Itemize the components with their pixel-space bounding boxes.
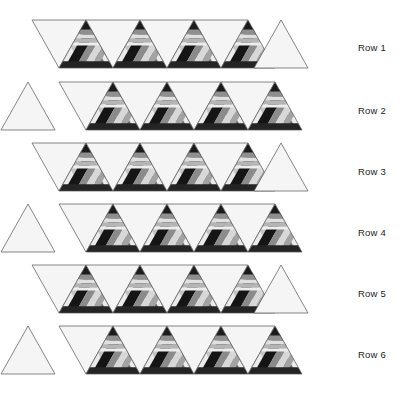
motif-band-base [140, 367, 194, 374]
motif-band-b4 [153, 105, 182, 108]
motif-band-b4 [207, 105, 236, 108]
motif-band-b4 [126, 43, 155, 46]
motif-band-base [194, 367, 248, 374]
motif-band-b4 [153, 349, 182, 352]
motif-band-b3 [208, 100, 233, 104]
motif-band-base [194, 123, 248, 130]
motif-band-b2 [238, 279, 259, 283]
motif-band-base [194, 245, 248, 252]
motif-band-b2 [238, 34, 259, 38]
motif-band-b4 [234, 288, 263, 291]
row-group-5 [32, 265, 308, 313]
motif-band-b3 [127, 161, 152, 165]
motif-band-b4 [72, 166, 101, 169]
motif-band-base [86, 245, 140, 252]
motif-band-base [86, 367, 140, 374]
motif-band-b3 [181, 38, 206, 42]
motif-band-b4 [180, 43, 209, 46]
motif-band-b4 [153, 227, 182, 230]
motif-band-b4 [234, 166, 263, 169]
motif-band-b2 [184, 157, 205, 161]
motif-band-b4 [261, 105, 290, 108]
motif-band-b2 [265, 340, 286, 344]
motif-band-b2 [265, 218, 286, 222]
motif-band-b3 [100, 222, 125, 226]
motif-band-b3 [262, 222, 287, 226]
motif-band-base [113, 184, 167, 191]
motif-band-b2 [211, 218, 232, 222]
motif-band-b4 [261, 227, 290, 230]
detached-triangle [1, 326, 55, 374]
motif-band-b2 [211, 96, 232, 100]
row-group-1 [32, 20, 308, 68]
motif-band-base [59, 61, 113, 68]
motif-band-base [167, 61, 221, 68]
motif-band-base [86, 123, 140, 130]
motif-band-b4 [261, 349, 290, 352]
motif-band-b3 [154, 344, 179, 348]
motif-band-b2 [130, 34, 151, 38]
motif-band-b3 [127, 283, 152, 287]
motif-band-base [140, 123, 194, 130]
row-label-3: Row 3 [358, 166, 386, 177]
motif-band-b4 [72, 43, 101, 46]
motif-band-b3 [181, 161, 206, 165]
motif-band-base [167, 184, 221, 191]
motif-band-base [59, 184, 113, 191]
motif-band-base [113, 61, 167, 68]
motif-band-b3 [235, 161, 260, 165]
motif-band-base [248, 245, 302, 252]
motif-band-b3 [262, 344, 287, 348]
motif-band-b2 [184, 34, 205, 38]
motif-band-b2 [238, 157, 259, 161]
row-group-3 [32, 143, 308, 191]
motif-band-b2 [157, 218, 178, 222]
motif-band-b2 [157, 96, 178, 100]
motif-band-b3 [100, 100, 125, 104]
motif-band-b3 [262, 100, 287, 104]
row-label-4: Row 4 [358, 227, 386, 238]
motif-band-b3 [154, 222, 179, 226]
row-label-2: Row 2 [358, 105, 386, 116]
motif-band-base [248, 123, 302, 130]
motif-band-b3 [235, 283, 260, 287]
motif-band-b4 [126, 166, 155, 169]
motif-band-b4 [207, 349, 236, 352]
motif-band-b3 [73, 283, 98, 287]
motif-band-b2 [76, 34, 97, 38]
row-label-5: Row 5 [358, 288, 386, 299]
motif-band-b3 [73, 38, 98, 42]
detached-triangle [1, 204, 55, 252]
detached-triangle [254, 143, 308, 191]
motif-band-b4 [99, 227, 128, 230]
detached-triangle [254, 265, 308, 313]
motif-band-b4 [126, 288, 155, 291]
row-label-6: Row 6 [358, 349, 386, 360]
motif-band-base [113, 306, 167, 313]
motif-band-b2 [130, 157, 151, 161]
motif-band-b3 [100, 344, 125, 348]
motif-band-b2 [76, 157, 97, 161]
row-group-2 [1, 82, 308, 130]
motif-band-b4 [99, 349, 128, 352]
motif-band-b2 [103, 340, 124, 344]
motif-band-b4 [180, 288, 209, 291]
motif-band-b3 [208, 222, 233, 226]
motif-band-b2 [130, 279, 151, 283]
motif-band-b3 [73, 161, 98, 165]
motif-band-b4 [180, 166, 209, 169]
row-group-6 [1, 326, 308, 374]
motif-band-b2 [76, 279, 97, 283]
row-label-1: Row 1 [358, 42, 386, 53]
detached-triangle [254, 20, 308, 68]
motif-band-base [140, 245, 194, 252]
motif-band-b2 [103, 218, 124, 222]
motif-band-base [248, 367, 302, 374]
motif-band-b4 [72, 288, 101, 291]
row-group-4 [1, 204, 308, 252]
motif-band-b3 [154, 100, 179, 104]
motif-band-b4 [207, 227, 236, 230]
motif-band-b2 [157, 340, 178, 344]
motif-band-b3 [127, 38, 152, 42]
motif-band-b4 [99, 105, 128, 108]
